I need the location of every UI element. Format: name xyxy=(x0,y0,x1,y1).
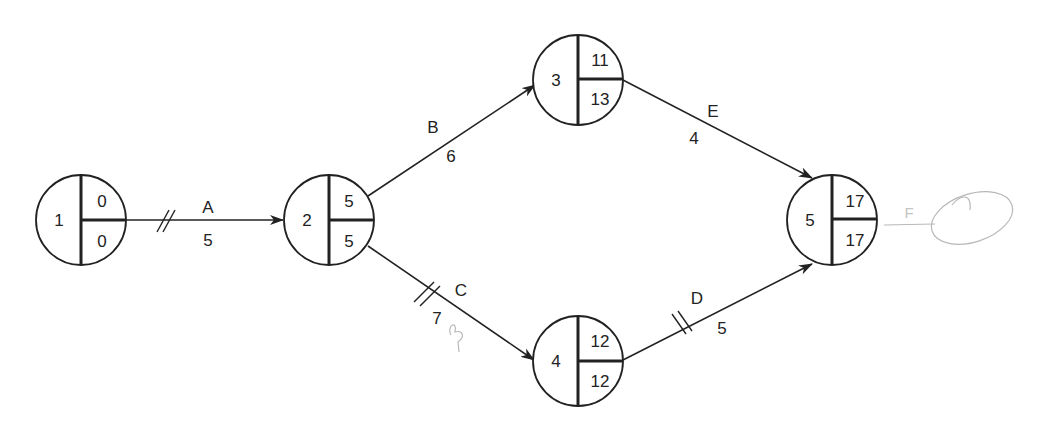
activity-D-name: D xyxy=(691,290,703,307)
activity-B-duration: 6 xyxy=(446,148,455,165)
node-3-earliest: 11 xyxy=(591,52,609,69)
activity-B-name: B xyxy=(427,119,438,136)
activity-B-arrow xyxy=(368,85,535,196)
node-2 xyxy=(284,175,374,265)
node-1-latest: 0 xyxy=(97,233,106,250)
activity-A-name: A xyxy=(202,199,213,216)
node-4-id: 4 xyxy=(551,353,560,370)
activity-C-arrow xyxy=(368,246,534,360)
pencil-scribble xyxy=(450,182,1020,352)
node-5-latest: 17 xyxy=(846,232,865,249)
node-3 xyxy=(533,35,623,125)
node-3-id: 3 xyxy=(551,72,560,89)
node-4-latest: 12 xyxy=(591,373,610,390)
node-5 xyxy=(787,175,877,265)
handwritten-annotation: F xyxy=(904,205,913,220)
activity-C-name: C xyxy=(455,282,467,299)
node-2-earliest: 5 xyxy=(344,193,353,210)
node-5-id: 5 xyxy=(805,212,814,229)
node-2-latest: 5 xyxy=(344,233,353,250)
node-1-earliest: 0 xyxy=(97,193,106,210)
network-diagram xyxy=(0,0,1050,431)
node-4 xyxy=(533,316,623,406)
activity-C-duration: 7 xyxy=(432,310,441,327)
node-4-earliest: 12 xyxy=(591,333,610,350)
node-5-earliest: 17 xyxy=(846,193,865,210)
activity-E-name: E xyxy=(707,103,718,120)
activity-E-duration: 4 xyxy=(689,130,698,147)
activity-A-duration: 5 xyxy=(203,232,212,249)
node-2-id: 2 xyxy=(302,212,311,229)
activity-E-arrow xyxy=(623,80,812,178)
activity-D-arrow xyxy=(623,264,812,360)
node-3-latest: 13 xyxy=(591,91,610,108)
node-1 xyxy=(36,175,126,265)
activity-D-duration: 5 xyxy=(717,320,726,337)
node-1-id: 1 xyxy=(54,212,63,229)
